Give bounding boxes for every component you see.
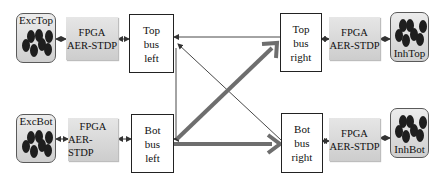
bus-bot-right: Bot bus right xyxy=(281,113,323,173)
bus-bot-left: Bot bus left xyxy=(131,114,174,173)
bus-label-2: bus xyxy=(293,36,308,50)
bus-top-left: Top bus left xyxy=(129,14,174,73)
fpga-label: FPGA xyxy=(341,127,368,140)
bus-label-1: Bot xyxy=(145,123,161,137)
network-diagram: ExcTop ExcBot InhTop InhBot FPGA AER-STD… xyxy=(0,0,444,183)
population-label: ExcTop xyxy=(17,15,55,26)
fpga-top-left: FPGA AER-STDP xyxy=(66,17,118,60)
population-exctop: ExcTop xyxy=(16,13,56,63)
bus-label-3: left xyxy=(144,51,159,65)
fpga-label: FPGA xyxy=(80,120,107,133)
fpga-top-right: FPGA AER-STDP xyxy=(329,17,380,60)
arrow-vertical-to-botbusleft xyxy=(174,48,176,139)
bus-label-2: bus xyxy=(145,137,160,151)
fpga-label: FPGA xyxy=(79,26,106,39)
bus-label-3: left xyxy=(145,151,160,165)
fpga-label: FPGA xyxy=(341,26,368,39)
population-inhbot: InhBot xyxy=(390,108,429,158)
bus-label-2: bus xyxy=(144,37,159,51)
population-inhtop: InhTop xyxy=(390,12,429,62)
population-label: InhBot xyxy=(391,144,428,155)
population-label: ExcBot xyxy=(17,116,55,127)
population-excbot: ExcBot xyxy=(16,114,56,163)
bus-label-1: Top xyxy=(293,22,310,36)
bus-label-2: bus xyxy=(294,136,309,150)
bus-label-1: Bot xyxy=(294,122,310,136)
population-label: InhTop xyxy=(391,48,428,59)
bus-label-1: Top xyxy=(143,23,160,37)
bus-label-3: right xyxy=(292,150,313,164)
bus-top-right: Top bus right xyxy=(280,13,322,72)
fpga-sublabel: AER-STDP xyxy=(329,39,379,52)
bus-label-3: right xyxy=(291,50,312,64)
fpga-sublabel: AER-STDP xyxy=(67,39,117,52)
fpga-sublabel: AER-STDP xyxy=(329,140,379,153)
fpga-sublabel: AER-STDP xyxy=(68,133,118,159)
fpga-bot-right: FPGA AER-STDP xyxy=(329,118,380,161)
thick-arrow-botbusleft-to-topbusright xyxy=(177,48,272,139)
fpga-bot-left: FPGA AER-STDP xyxy=(68,118,118,161)
